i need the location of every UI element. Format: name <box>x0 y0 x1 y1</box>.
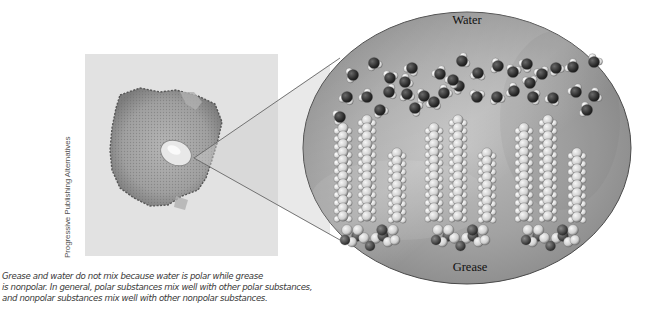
caption-line: and nonpolar substances mix well with ot… <box>2 293 332 304</box>
water-label: Water <box>452 13 482 27</box>
molecular-inset: Water Grease <box>299 8 640 290</box>
figure-graphic: Water Grease <box>0 0 655 310</box>
caption-line: is nonpolar. In general, polar substance… <box>2 282 332 293</box>
caption-line: Grease and water do not mix because wate… <box>2 271 332 282</box>
figure-caption: Grease and water do not mix because wate… <box>2 271 332 304</box>
grease-label: Grease <box>453 260 488 274</box>
photo-credit: Progressive Publishing Alternatives <box>63 137 72 258</box>
grease-water-figure: Water Grease Progressive Publishing Alte… <box>0 0 655 310</box>
